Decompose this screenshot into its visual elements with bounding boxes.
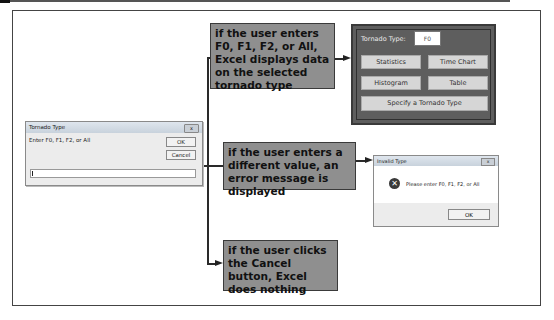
close-icon[interactable]: x (481, 158, 495, 166)
table-button[interactable]: Table (428, 76, 488, 90)
callout-invalid-entry: if the user enters a different value, an… (223, 142, 356, 190)
error-message: Please enter F0, F1, F2, or All (406, 181, 479, 187)
specify-tornado-type-button[interactable]: Specify a Tornado Type (361, 96, 488, 111)
dialog-prompt: Enter F0, F1, F2, or All (29, 137, 90, 143)
invalid-type-dialog: Invalid Type x ✕ Please enter F0, F1, F2… (373, 155, 499, 227)
tornado-control-panel: Tornado Type: F0 Statistics Time Chart H… (351, 24, 496, 125)
ok-button[interactable]: OK (166, 137, 196, 147)
top-rule (10, 0, 510, 2)
arrow-to-callout-3 (215, 260, 223, 266)
tornado-type-label: Tornado Type: (361, 35, 406, 43)
error-ok-button[interactable]: OK (448, 209, 490, 220)
tornado-type-input-dialog: Tornado Type x Enter F0, F1, F2, or All … (25, 121, 203, 186)
connector-callout2-to-error (356, 160, 365, 162)
cancel-button[interactable]: Cancel (166, 150, 196, 160)
connector-vertical (207, 57, 209, 264)
error-dialog-title: Invalid Type (377, 158, 407, 164)
error-x-icon: ✕ (389, 178, 400, 189)
dialog-title: Tornado Type (29, 124, 65, 130)
connector-to-callout-3 (207, 263, 215, 265)
arrow-to-error-dialog (365, 157, 373, 163)
callout-cancel: if the user clicks the Cancel button, Ex… (223, 240, 338, 291)
error-dialog-footer: OK (374, 203, 498, 226)
top-edge-mark (0, 0, 10, 3)
connector-callout1-to-panel (335, 58, 343, 60)
tornado-type-value: F0 (414, 31, 441, 46)
histogram-button[interactable]: Histogram (361, 76, 421, 90)
tornado-type-input[interactable] (30, 169, 196, 178)
close-icon[interactable]: x (184, 124, 199, 133)
arrow-to-panel (343, 55, 351, 61)
statistics-button[interactable]: Statistics (361, 55, 421, 69)
text-caret (32, 171, 33, 176)
dialog-title-bar: Tornado Type x (26, 122, 202, 133)
callout-valid-entry: if the user enters F0, F1, F2, or All, E… (210, 23, 335, 89)
time-chart-button[interactable]: Time Chart (428, 55, 488, 69)
error-dialog-title-bar: Invalid Type x (374, 156, 498, 166)
connector-dialog-horizontal (201, 165, 223, 167)
